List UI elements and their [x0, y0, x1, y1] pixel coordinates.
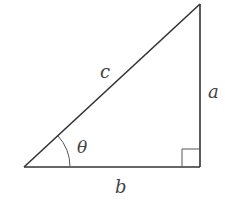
side-hypotenuse-c [24, 4, 200, 167]
angle-arc [58, 136, 70, 167]
label-adjacent: b [115, 176, 127, 197]
label-opposite: a [208, 81, 219, 102]
right-angle-marker [182, 149, 200, 167]
label-hypotenuse: c [100, 61, 110, 82]
right-triangle-diagram: c a b θ [0, 0, 225, 216]
label-angle-theta: θ [77, 137, 87, 157]
